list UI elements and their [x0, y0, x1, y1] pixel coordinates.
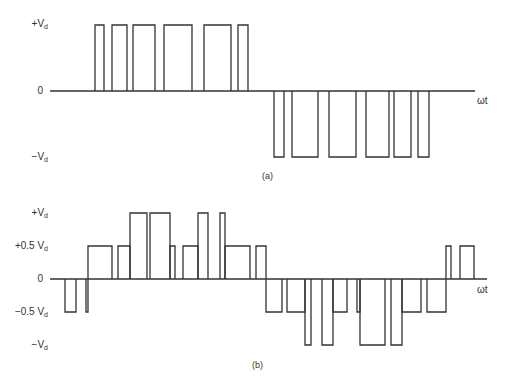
- b-axis-label-omega-t: ωt: [477, 284, 488, 295]
- a-label-pos-vd: +Vd: [0, 18, 48, 30]
- b-label-zero: 0: [0, 273, 43, 284]
- pwm-waveform-figure: +Vd 0 −Vd ωt (a) +Vd +0.5 Vd 0 −0.5 Vd −…: [0, 0, 507, 379]
- b-label-pos-vd: +Vd: [0, 207, 48, 219]
- b-label-half-neg-vd: −0.5 Vd: [0, 306, 48, 318]
- b-label-half-pos-vd: +0.5 Vd: [0, 240, 48, 252]
- waveform-plots: [0, 0, 507, 379]
- a-label-zero: 0: [0, 85, 43, 96]
- b-caption: (b): [252, 360, 263, 370]
- a-axis-label-omega-t: ωt: [477, 95, 488, 106]
- b-label-neg-vd: −Vd: [0, 339, 48, 351]
- a-caption: (a): [262, 171, 273, 181]
- a-label-neg-vd: −Vd: [0, 151, 48, 163]
